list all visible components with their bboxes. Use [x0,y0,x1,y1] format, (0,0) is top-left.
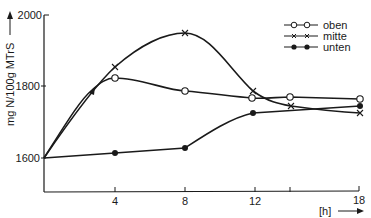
y-tick-label: 2000 [18,9,42,21]
y-tick-label: 1800 [16,80,40,92]
x-tick-label: 8 [182,195,188,207]
series-unten-line [44,106,360,158]
series-mitte-line [44,33,360,158]
x-axis-label: [h] [319,205,331,217]
y-arrow-icon [7,11,13,35]
series-oben-line [44,78,360,158]
line-chart: 2000 1800 1600 4 8 12 18 [h] mg N/100g M… [0,0,371,218]
legend-item-unten: unten [284,41,351,53]
legend: oben mitte unten [284,19,351,53]
x-tick-label: 12 [249,195,261,207]
x-tick-label: 18 [353,194,365,206]
y-axis-label: mg N/100g MTrS [4,43,16,126]
y-tick-label: 1600 [16,152,40,164]
x-arrow-icon [338,208,364,214]
x-tick-label: 4 [112,195,118,207]
x-axis [44,191,359,192]
legend-label: unten [323,41,351,53]
x-ticks: 4 8 12 18 [112,186,365,207]
